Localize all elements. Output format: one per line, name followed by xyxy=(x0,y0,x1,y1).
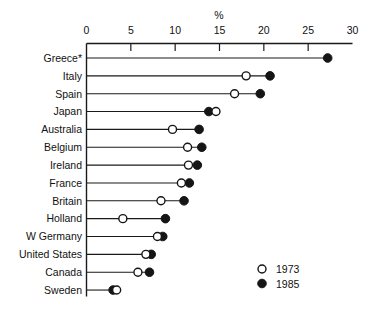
category-label-italy: Italy xyxy=(63,70,83,82)
legend-label-1973: 1973 xyxy=(276,263,300,275)
row-spain xyxy=(87,89,265,98)
marker-1973-canada xyxy=(134,268,142,276)
category-label-spain: Spain xyxy=(55,88,82,100)
category-label-holland: Holland xyxy=(46,212,82,224)
category-label-united-states: United States xyxy=(19,248,82,260)
x-tick-label-5: 5 xyxy=(128,24,134,36)
legend-marker-open-circle xyxy=(258,265,266,273)
row-greece xyxy=(87,54,332,63)
legend-label-1985: 1985 xyxy=(276,278,300,290)
category-labels: Greece*ItalySpainJapanAustraliaBelgiumIr… xyxy=(19,52,83,296)
data-rows xyxy=(87,54,332,295)
marker-1985-ireland xyxy=(193,161,202,170)
category-label-ireland: Ireland xyxy=(50,159,82,171)
marker-1985-italy xyxy=(266,72,275,81)
marker-1973-spain xyxy=(231,90,239,98)
category-label-australia: Australia xyxy=(41,123,82,135)
row-ireland xyxy=(87,161,202,170)
row-united-states xyxy=(87,250,156,259)
legend-item-1973: 1973 xyxy=(258,263,300,275)
row-w-germany xyxy=(87,232,168,241)
x-axis-title: % xyxy=(214,9,223,21)
marker-1973-ireland xyxy=(184,161,192,169)
marker-1985-france xyxy=(185,179,194,188)
marker-1973-w-germany xyxy=(153,233,161,241)
legend-item-1985: 1985 xyxy=(258,278,300,290)
marker-1973-united-states xyxy=(142,250,150,258)
category-label-france: France xyxy=(49,177,82,189)
category-label-w-germany: W Germany xyxy=(26,230,83,242)
x-tick-label-15: 15 xyxy=(214,24,226,36)
category-label-japan: Japan xyxy=(53,105,82,117)
category-label-britain: Britain xyxy=(52,195,82,207)
x-tick-label-20: 20 xyxy=(258,24,270,36)
marker-1973-japan xyxy=(212,108,220,116)
row-holland xyxy=(87,214,170,223)
row-italy xyxy=(87,72,275,81)
row-australia xyxy=(87,125,204,134)
category-label-greece: Greece* xyxy=(43,52,82,64)
chart-legend: 19731985 xyxy=(258,263,300,290)
x-tick-label-25: 25 xyxy=(302,24,314,36)
marker-1973-britain xyxy=(157,197,165,205)
x-tick-label-30: 30 xyxy=(347,24,359,36)
x-tick-label-0: 0 xyxy=(84,24,90,36)
marker-1985-canada xyxy=(145,268,154,277)
row-britain xyxy=(87,197,189,206)
row-sweden xyxy=(87,286,121,295)
marker-1985-spain xyxy=(256,89,265,98)
marker-1973-holland xyxy=(119,215,127,223)
marker-1985-britain xyxy=(180,197,189,206)
chart-canvas: % 051015202530 Greece*ItalySpainJapanAus… xyxy=(0,0,369,309)
marker-1973-italy xyxy=(242,72,250,80)
category-label-sweden: Sweden xyxy=(44,284,82,296)
x-axis-tick-labels: 051015202530 xyxy=(84,24,359,36)
marker-1973-belgium xyxy=(184,143,192,151)
axis-title-group: % xyxy=(214,9,223,21)
row-japan xyxy=(87,107,220,116)
category-label-belgium: Belgium xyxy=(44,141,82,153)
dumbbell-chart: % 051015202530 Greece*ItalySpainJapanAus… xyxy=(0,0,369,309)
row-belgium xyxy=(87,143,207,152)
marker-1985-greece xyxy=(323,54,332,63)
row-canada xyxy=(87,268,154,277)
marker-1985-holland xyxy=(161,214,170,223)
marker-1985-australia xyxy=(195,125,204,134)
x-axis-tick-marks xyxy=(131,44,308,52)
marker-1973-sweden xyxy=(113,286,121,294)
marker-1973-australia xyxy=(169,125,177,133)
legend-marker-filled-circle xyxy=(258,279,267,288)
marker-1973-france xyxy=(177,179,185,187)
row-france xyxy=(87,179,194,188)
marker-1985-belgium xyxy=(197,143,206,152)
x-tick-label-10: 10 xyxy=(169,24,181,36)
category-label-canada: Canada xyxy=(45,266,82,278)
